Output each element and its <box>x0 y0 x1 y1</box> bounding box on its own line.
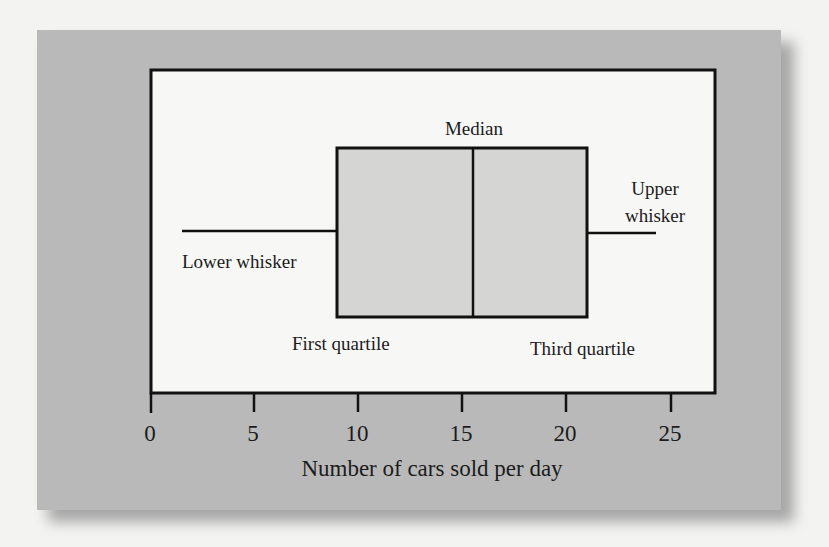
x-axis <box>151 393 671 413</box>
x-tick-label: 25 <box>659 421 682 446</box>
lower-whisker-label: Lower whisker <box>182 251 297 272</box>
x-tick-label: 5 <box>247 421 259 446</box>
iqr-box <box>337 148 587 317</box>
third-quartile-label: Third quartile <box>530 338 635 359</box>
x-tick-label: 20 <box>554 421 577 446</box>
upper-whisker-label-line2: whisker <box>625 205 686 226</box>
first-quartile-label: First quartile <box>292 333 390 354</box>
x-axis-title: Number of cars sold per day <box>301 456 563 481</box>
box-plot-chart: 0 5 10 15 20 25 Number of cars sold per … <box>0 0 829 547</box>
x-tick-label: 15 <box>450 421 473 446</box>
x-tick-label: 0 <box>144 421 156 446</box>
x-tick-labels: 0 5 10 15 20 25 <box>144 421 681 446</box>
x-tick-label: 10 <box>346 421 369 446</box>
median-label: Median <box>445 118 504 139</box>
upper-whisker-label-line1: Upper <box>631 178 679 199</box>
